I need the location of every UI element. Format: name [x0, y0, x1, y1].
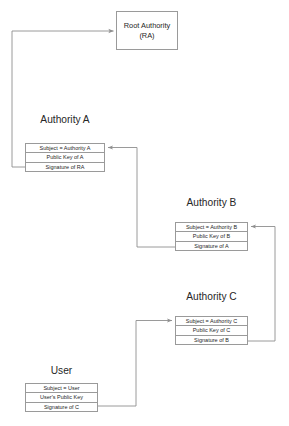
- heading-user: User: [25, 364, 98, 377]
- cert-row: Public Key of B: [176, 232, 247, 241]
- root-authority-line-1: Root Authority: [124, 21, 170, 31]
- cert-row: Subject = Authority B: [176, 223, 247, 232]
- root-authority-line-2: (RA): [139, 31, 154, 41]
- connector-b-to-a: [108, 148, 175, 248]
- heading-authority-c: Authority C: [175, 290, 248, 303]
- connector-c-to-b: [248, 227, 275, 342]
- cert-row: Signature of C: [26, 403, 97, 412]
- cert-row: Public Key of C: [176, 326, 247, 335]
- cert-row: Subject = Authority A: [26, 144, 104, 153]
- heading-authority-a: Authority A: [25, 113, 105, 126]
- cert-row: Signature of A: [176, 242, 247, 251]
- certificate-authority-b: Subject = Authority B Public Key of B Si…: [175, 222, 248, 251]
- cert-row: Signature of RA: [26, 163, 104, 172]
- root-authority-box: Root Authority (RA): [116, 11, 178, 50]
- cert-row: Subject = User: [26, 384, 97, 393]
- cert-row: Subject = Authority C: [176, 317, 247, 326]
- certificate-authority-c: Subject = Authority C Public Key of C Si…: [175, 316, 248, 345]
- diagram-canvas: Root Authority (RA) Authority A Subject …: [0, 0, 289, 426]
- connector-user-to-c: [98, 321, 172, 407]
- heading-authority-b: Authority B: [175, 196, 248, 209]
- cert-row: Signature of B: [176, 336, 247, 345]
- certificate-authority-a: Subject = Authority A Public Key of A Si…: [25, 143, 105, 172]
- cert-row: User's Public Key: [26, 393, 97, 402]
- certificate-user: Subject = User User's Public Key Signatu…: [25, 383, 98, 412]
- connector-layer: [0, 0, 289, 426]
- cert-row: Public Key of A: [26, 153, 104, 162]
